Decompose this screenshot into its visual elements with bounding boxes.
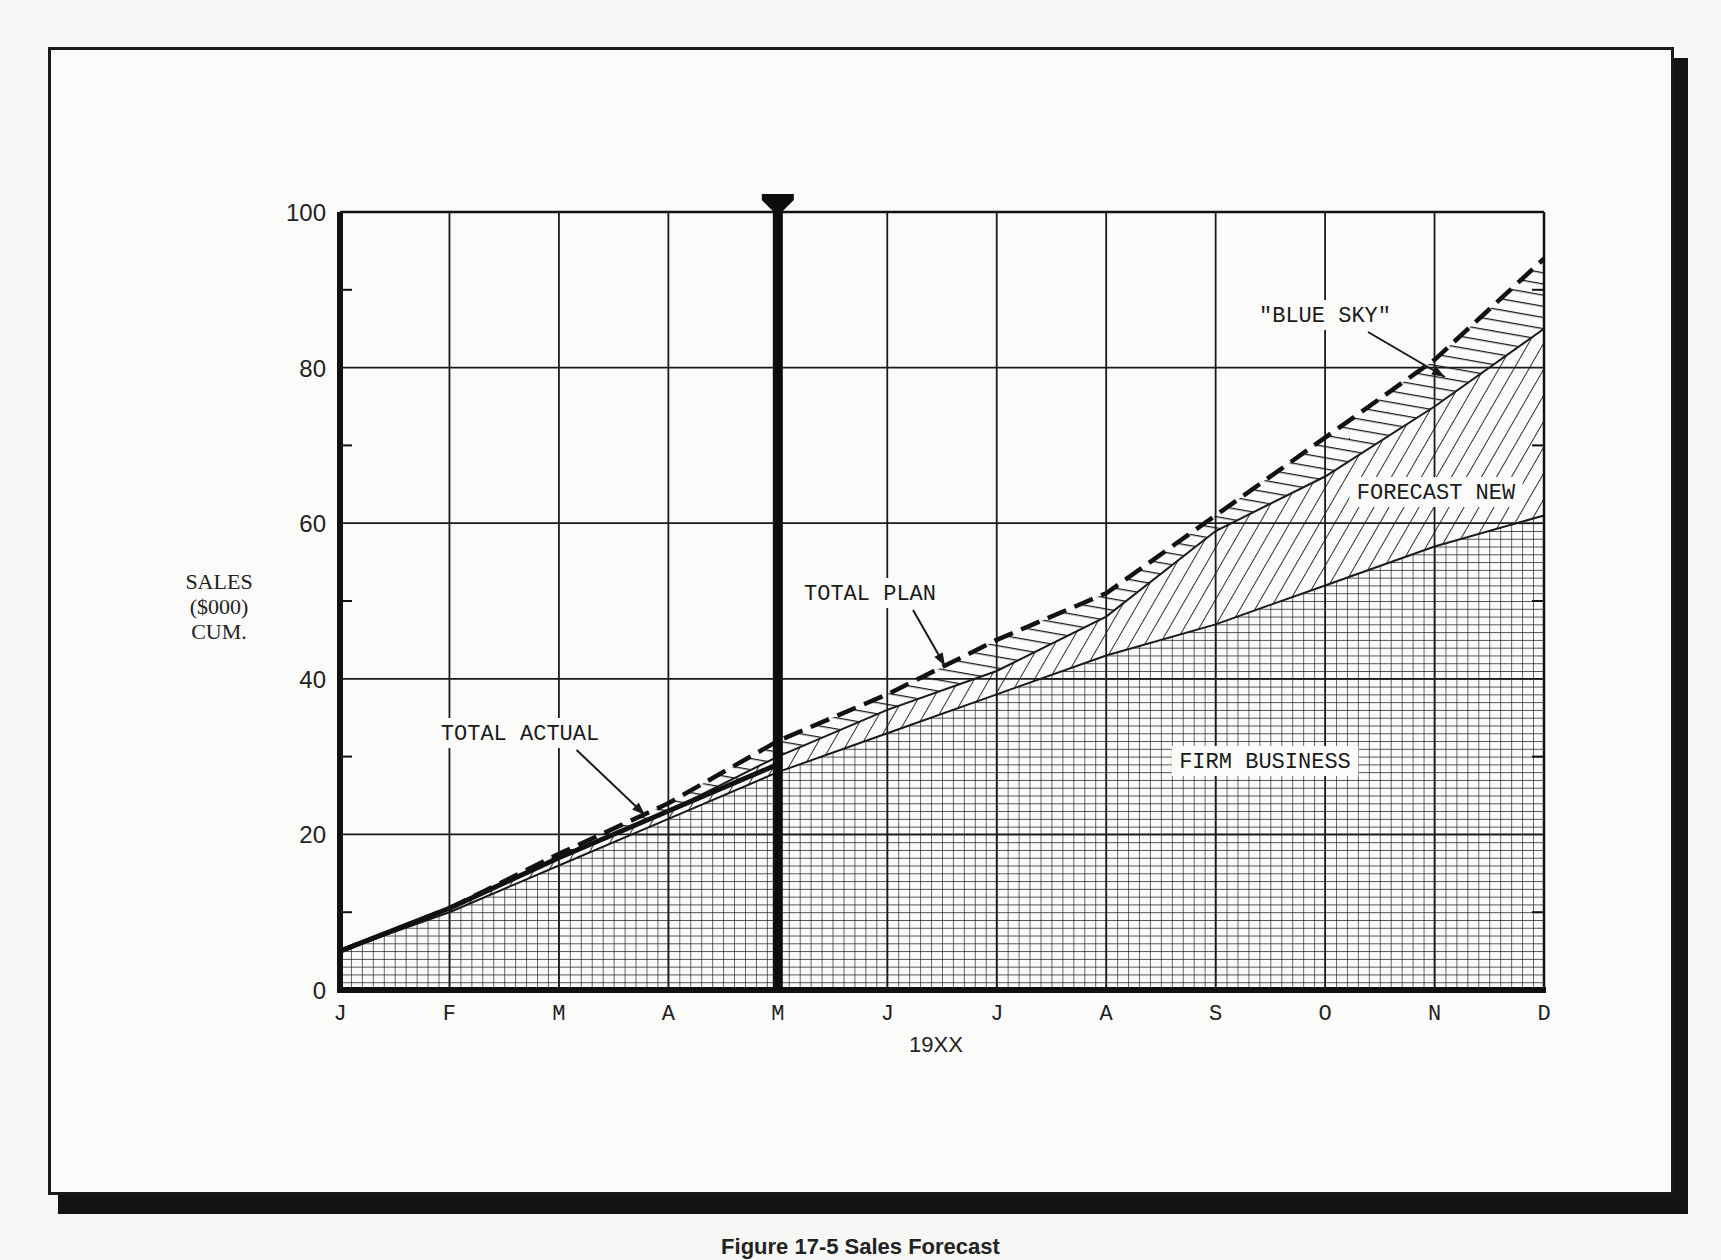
annotation-label: TOTAL PLAN (804, 582, 936, 607)
y-tick-label: 100 (286, 199, 326, 226)
annotation-forecast-new: FORECAST NEW (1349, 477, 1522, 507)
y-tick-label: 20 (299, 821, 326, 848)
y-axis-title-line: CUM. (191, 619, 247, 644)
x-tick-label: A (1100, 1002, 1114, 1027)
annotation-label: "BLUE SKY" (1259, 304, 1391, 329)
y-axis-title-line: ($000) (190, 594, 249, 619)
annotation-label: TOTAL ACTUAL (441, 722, 599, 747)
x-tick-label: M (552, 1002, 565, 1027)
figure-caption: Figure 17-5 Sales Forecast (0, 1234, 1721, 1260)
annotation-firm-business: FIRM BUSINESS (1172, 746, 1359, 776)
annotation-arrow (1368, 332, 1445, 377)
x-tick-label: O (1318, 1002, 1331, 1027)
annotation-arrow (577, 750, 645, 815)
x-tick-label: J (333, 1002, 346, 1027)
annotation-total-plan: TOTAL PLAN (797, 578, 945, 666)
annotation-total-actual: TOTAL ACTUAL (433, 718, 645, 815)
x-tick-label: D (1537, 1002, 1550, 1027)
y-tick-label: 40 (299, 666, 326, 693)
y-tick-label: 60 (299, 510, 326, 537)
x-tick-label: A (662, 1002, 676, 1027)
x-tick-label: N (1428, 1002, 1441, 1027)
x-tick-label: S (1209, 1002, 1222, 1027)
x-tick-label: J (990, 1002, 1003, 1027)
y-axis-title-line: SALES (185, 569, 252, 594)
arrowhead-icon (934, 652, 945, 666)
annotation-label: FORECAST NEW (1357, 481, 1516, 506)
x-tick-label: M (771, 1002, 784, 1027)
x-tick-label: F (443, 1002, 456, 1027)
annotation-blue-sky: "BLUE SKY" (1252, 300, 1445, 377)
y-tick-label: 80 (299, 355, 326, 382)
x-axis-title: 19XX (909, 1032, 963, 1057)
annotation-label: FIRM BUSINESS (1179, 750, 1351, 775)
y-tick-label: 0 (313, 977, 326, 1004)
x-tick-label: J (881, 1002, 894, 1027)
